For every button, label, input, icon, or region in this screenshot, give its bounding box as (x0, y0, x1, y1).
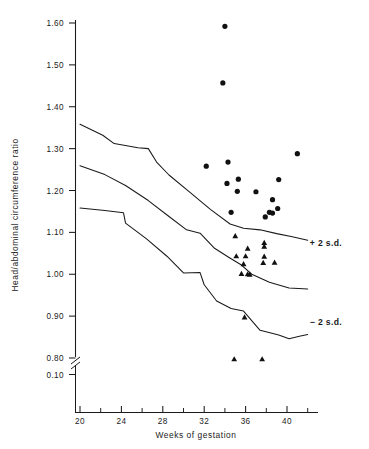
data-point-circle (270, 197, 275, 202)
y-tick-label-0.80: 0.80 (46, 354, 64, 363)
curve-mean (80, 166, 308, 289)
data-point-circle (275, 206, 280, 211)
x-tick-label-32: 32 (199, 417, 209, 426)
data-point-triangle (259, 356, 265, 361)
data-point-circle (220, 80, 225, 85)
data-point-triangle (231, 356, 237, 361)
data-point-circle (236, 177, 241, 182)
chart-figure: 1.601.501.401.301.201.101.000.900.80 0.1… (0, 0, 369, 449)
data-point-triangle (261, 254, 267, 259)
curve-2-s-d (80, 124, 308, 240)
data-point-circle (253, 189, 258, 194)
data-point-circle (295, 151, 300, 156)
annotation-2-s-d: + 2 s.d. (310, 238, 342, 248)
data-point-triangle (232, 233, 238, 238)
data-point-circle (225, 159, 230, 164)
y-axis-title: Head/abdominal circumference ratio (10, 138, 20, 291)
y-tick-label-1.10: 1.10 (46, 228, 64, 237)
y-tick-label-1.50: 1.50 (46, 61, 64, 70)
data-point-circle (204, 164, 209, 169)
data-marker-group (204, 24, 300, 362)
y-tick-label-1.40: 1.40 (46, 103, 64, 112)
data-point-triangle (239, 271, 245, 276)
data-point-circle (263, 214, 268, 219)
x-tick-label-20: 20 (75, 417, 85, 426)
y-tick-label-break: 0.10 (46, 371, 64, 380)
y-tick-label-1.60: 1.60 (46, 19, 64, 28)
data-point-triangle (245, 246, 251, 251)
reference-curve-group (80, 124, 308, 338)
data-point-triangle (233, 253, 239, 258)
data-point-circle (229, 210, 234, 215)
scatter-chart-svg: 1.601.501.401.301.201.101.000.900.80 0.1… (0, 0, 369, 449)
curve-2-s-d (80, 208, 308, 339)
data-point-circle (224, 181, 229, 186)
y-tick-label-1.00: 1.00 (46, 270, 64, 279)
data-point-triangle (260, 260, 266, 265)
x-tick-label-40: 40 (282, 417, 292, 426)
data-point-circle (276, 177, 281, 182)
y-tick-label-1.20: 1.20 (46, 187, 64, 196)
x-tick-label-28: 28 (158, 417, 168, 426)
x-tick-label-24: 24 (116, 417, 126, 426)
data-point-triangle (241, 261, 247, 266)
y-tick-group: 1.601.501.401.301.201.101.000.900.80 (46, 19, 75, 363)
data-point-triangle (272, 259, 278, 264)
y-tick-label-0.90: 0.90 (46, 312, 64, 321)
y-tick-label-1.30: 1.30 (46, 145, 64, 154)
data-point-circle (222, 24, 227, 29)
band-annotation-group: + 2 s.d.− 2 s.d. (310, 238, 342, 328)
data-point-circle (270, 211, 275, 216)
annotation-2-s-d: − 2 s.d. (310, 317, 342, 327)
data-point-triangle (243, 253, 249, 258)
y-tick-break-value: 0.10 (46, 371, 75, 380)
x-tick-label-36: 36 (241, 417, 251, 426)
data-point-circle (235, 189, 240, 194)
x-axis-title: Weeks of gestation (156, 430, 237, 440)
